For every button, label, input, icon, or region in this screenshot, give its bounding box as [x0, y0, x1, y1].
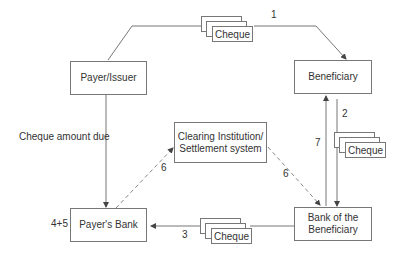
cheque-stack-step3: Cheque	[200, 218, 242, 235]
step-6-right-label: 6	[283, 168, 289, 179]
cheque-label: Cheque	[215, 29, 250, 40]
cheque-sheet-front: Cheque	[345, 142, 386, 158]
node-payers-bank: Payer's Bank	[70, 208, 147, 242]
step-1-label: 1	[271, 9, 277, 20]
step-3-label: 3	[182, 229, 188, 240]
node-payers-bank-label: Payer's Bank	[79, 219, 138, 231]
node-bank-of-beneficiary: Bank of the Beneficiary	[294, 207, 372, 241]
cheque-label: Cheque	[348, 145, 383, 156]
cheque-stack-step2: Cheque	[334, 132, 376, 149]
cheque-label: Cheque	[214, 231, 249, 242]
cheque-sheet-front: Cheque	[212, 26, 253, 42]
step-6-left-label: 6	[161, 162, 167, 173]
node-clearing-label-line2: Settlement system	[179, 143, 261, 155]
cheque-sheet-front: Cheque	[211, 228, 252, 244]
node-payer-issuer: Payer/Issuer	[70, 61, 147, 95]
step-7-label: 7	[315, 137, 321, 148]
node-clearing-label-line1: Clearing Institution/	[178, 131, 264, 143]
node-beneficiary: Beneficiary	[294, 60, 372, 94]
step-45-label: 4+5	[51, 218, 68, 229]
step-2-label: 2	[342, 108, 348, 119]
amount-due-label: Cheque amount due	[19, 131, 110, 142]
cheque-stack-step1: Cheque	[201, 16, 243, 33]
node-bank-beneficiary-line1: Bank of the	[308, 212, 359, 224]
node-bank-beneficiary-line2: Beneficiary	[308, 224, 357, 236]
node-beneficiary-label: Beneficiary	[308, 71, 357, 83]
node-payer-issuer-label: Payer/Issuer	[80, 72, 136, 84]
node-clearing-institution: Clearing Institution/ Settlement system	[174, 122, 267, 163]
